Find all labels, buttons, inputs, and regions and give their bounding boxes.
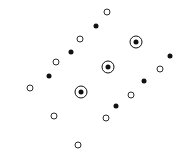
data-point-open xyxy=(103,115,110,122)
data-point-target xyxy=(130,36,143,49)
data-point-filled xyxy=(47,74,52,79)
data-point-open xyxy=(77,36,84,43)
data-point-open xyxy=(104,9,111,16)
data-point-open xyxy=(128,92,135,99)
scatter-plot-canvas xyxy=(0,0,183,161)
data-point-target xyxy=(102,61,115,74)
data-point-filled xyxy=(114,104,119,109)
data-point-target xyxy=(75,86,88,99)
data-point-open xyxy=(75,142,82,149)
data-point-open xyxy=(27,85,34,92)
data-point-core xyxy=(106,65,111,70)
data-point-filled xyxy=(94,24,99,29)
data-point-core xyxy=(79,90,84,95)
data-point-filled xyxy=(168,54,173,59)
data-point-filled xyxy=(69,50,74,55)
data-point-open xyxy=(51,113,58,120)
data-point-core xyxy=(134,40,139,45)
data-point-open xyxy=(53,59,60,66)
data-point-open xyxy=(157,66,164,73)
data-point-filled xyxy=(142,79,147,84)
